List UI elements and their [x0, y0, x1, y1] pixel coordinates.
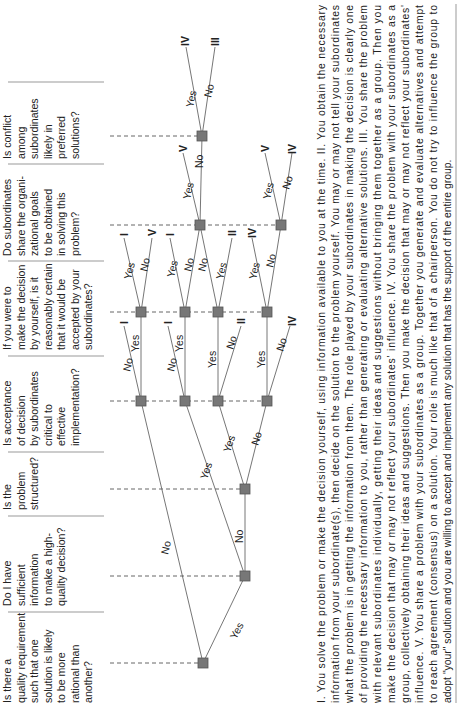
- outcome-label: III: [209, 37, 221, 46]
- tree-nodes: [136, 131, 286, 668]
- decision-node: [180, 307, 190, 317]
- outcome-label: IV: [286, 144, 298, 154]
- no-label: No: [195, 257, 210, 273]
- no-label: No: [158, 540, 173, 556]
- no-label: No: [223, 334, 239, 351]
- no-label: No: [248, 430, 264, 447]
- yes-label: Yes: [246, 261, 262, 280]
- question-e-text: If you were tomake the decisionby yourse…: [1, 263, 94, 350]
- question-e: If you were tomake the decisionby yourse…: [1, 263, 94, 350]
- yes-label: Yes: [129, 335, 141, 352]
- no-label: No: [181, 257, 196, 273]
- outcome-label: V: [177, 145, 189, 152]
- yes-label: Yes: [260, 181, 276, 200]
- question-f-text: Do subordinatesshare the organi-zational…: [1, 175, 81, 256]
- no-label: No: [273, 336, 289, 353]
- no-label: No: [137, 257, 152, 273]
- question-a: Is there aquality requirementsuch that o…: [1, 613, 94, 703]
- decision-node: [197, 131, 207, 141]
- no-label: No: [164, 357, 179, 373]
- question-d: Is acceptanceof decisionby subordinatesc…: [1, 368, 81, 446]
- outcome-label: V: [146, 229, 158, 236]
- question-a-text: Is there aquality requirementsuch that o…: [1, 613, 94, 703]
- decision-node: [198, 658, 208, 668]
- yes-label: Yes: [206, 351, 218, 368]
- guide-lines: [110, 136, 278, 663]
- no-label: No: [233, 529, 245, 543]
- decision-node: [276, 220, 286, 230]
- yes-label: Yes: [213, 261, 229, 280]
- yes-label: Yes: [173, 335, 185, 352]
- outcome-label: IV: [179, 36, 191, 46]
- decision-node: [240, 484, 250, 494]
- no-label: No: [201, 82, 216, 98]
- decision-tree-figure: Is there aquality requirementsuch that o…: [0, 0, 462, 707]
- outcome-label: II: [226, 230, 238, 236]
- outcome-label: V: [259, 145, 271, 152]
- outcome-label: IV: [286, 316, 298, 326]
- decision-node: [240, 571, 250, 581]
- question-b-text: Do I havesufficientinformationto make a …: [1, 528, 67, 606]
- decision-node: [262, 307, 272, 317]
- no-label: No: [120, 357, 135, 373]
- outcome-label: I: [162, 321, 174, 324]
- question-g-text: Is conflictamongsubordinateslikely inpre…: [1, 98, 81, 159]
- outcome-explanation: I. You solve the problem or make the dec…: [316, 1, 453, 704]
- yes-label: Yes: [227, 620, 246, 641]
- yes-label: Yes: [121, 261, 137, 280]
- outcome-label: IV: [246, 228, 258, 238]
- question-c: Is theproblemstructured?: [1, 457, 40, 510]
- yes-label: Yes: [255, 351, 267, 368]
- decision-node: [180, 396, 190, 406]
- explanation-text: I. You solve the problem or make the dec…: [316, 1, 453, 704]
- outcome-label: I: [118, 321, 130, 324]
- decision-node: [136, 396, 146, 406]
- yes-label: Yes: [220, 434, 237, 454]
- outcome-label: I: [118, 233, 130, 236]
- question-g: Is conflictamongsubordinateslikely inpre…: [1, 98, 81, 159]
- decision-node: [213, 307, 223, 317]
- decision-node: [136, 307, 146, 317]
- no-label: No: [263, 253, 278, 269]
- question-headers: Is there aquality requirementsuch that o…: [1, 82, 104, 703]
- outcome-label: I: [164, 233, 176, 236]
- no-label: No: [193, 154, 205, 168]
- no-label: No: [279, 174, 295, 191]
- outcome-label: II: [235, 318, 247, 324]
- decision-node: [262, 396, 272, 406]
- question-f: Do subordinatesshare the organi-zational…: [1, 175, 81, 256]
- question-b: Do I havesufficientinformationto make a …: [1, 528, 67, 606]
- question-c-text: Is theproblemstructured?: [1, 457, 40, 510]
- question-d-text: Is acceptanceof decisionby subordinatesc…: [1, 368, 81, 446]
- decision-node: [213, 396, 223, 406]
- edge-labels: Yes No No Yes Yes No No Yes No Yes Yes N…: [120, 82, 295, 641]
- decision-node: [195, 220, 205, 230]
